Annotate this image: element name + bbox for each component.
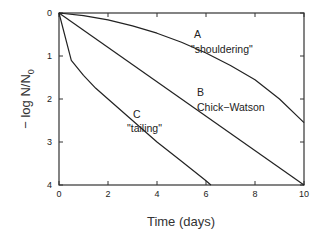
x-tick-label: 4 <box>154 189 159 199</box>
x-tick-label: 6 <box>203 189 208 199</box>
y-tick-label: 2 <box>47 94 52 104</box>
curve-description-c: "tailing" <box>127 122 162 134</box>
y-tick-label: 3 <box>47 137 52 147</box>
curve-a <box>59 13 304 123</box>
x-tick-label: 10 <box>299 189 309 199</box>
y-axis-title-main: − log N/N <box>18 74 33 129</box>
y-axis-title: − log N/N0 <box>18 69 36 129</box>
curve-description-b: Chick−Watson <box>197 101 265 113</box>
y-tick-label: 1 <box>47 51 52 61</box>
x-tick-label: 2 <box>105 189 110 199</box>
y-tick-label: 4 <box>47 180 52 190</box>
x-tick-label: 8 <box>252 189 257 199</box>
svg-text:− log N/N0: − log N/N0 <box>18 69 36 129</box>
chart: 0246810 01234 A"shouldering"BChick−Watso… <box>0 0 325 249</box>
curve-description-a: "shouldering" <box>191 43 253 55</box>
y-tick-label: 0 <box>47 8 52 18</box>
curve-c <box>59 13 211 185</box>
curve-b <box>59 13 304 185</box>
x-axis-title: Time (days) <box>147 214 215 229</box>
curve-label-a: A <box>194 28 201 40</box>
y-axis-ticks: 01234 <box>47 8 304 190</box>
curve-label-b: B <box>197 86 204 98</box>
x-axis-ticks: 0246810 <box>56 13 309 199</box>
y-axis-title-subscript: 0 <box>26 69 36 74</box>
curve-annotations: A"shouldering"BChick−WatsonC"tailing" <box>127 28 265 134</box>
series-layer <box>59 13 304 185</box>
curve-label-c: C <box>133 108 141 120</box>
x-tick-label: 0 <box>56 189 61 199</box>
